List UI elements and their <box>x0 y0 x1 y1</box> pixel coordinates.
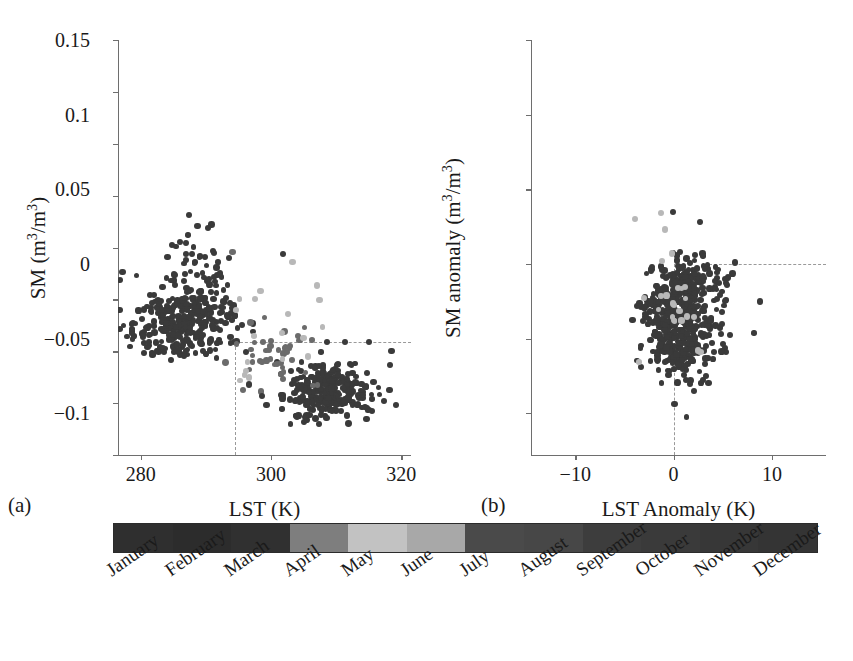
scatter-point <box>195 308 201 314</box>
scatter-point <box>704 334 710 340</box>
scatter-point <box>146 339 152 345</box>
scatter-point <box>706 285 713 292</box>
y-axis-tick-label: 0.05 <box>55 179 90 199</box>
scatter-point <box>310 383 316 389</box>
scatter-point <box>699 285 705 291</box>
scatter-point <box>318 387 323 392</box>
scatter-point <box>718 348 725 355</box>
scatter-point <box>259 359 264 364</box>
scatter-point <box>181 353 187 359</box>
scatter-point <box>234 341 240 347</box>
scatter-point <box>173 244 178 249</box>
scatter-point <box>687 260 693 266</box>
scatter-point <box>333 402 339 408</box>
scatter-point <box>314 282 320 288</box>
scatter-point <box>676 327 681 332</box>
scatter-point <box>362 404 367 409</box>
scatter-point <box>663 344 670 351</box>
scatter-point <box>669 282 674 287</box>
scatter-point <box>679 264 686 271</box>
scatter-point <box>280 356 285 361</box>
scatter-point <box>197 288 204 295</box>
scatter-point <box>246 381 252 387</box>
scatter-point <box>181 278 187 284</box>
scatter-point <box>329 408 335 414</box>
scatter-point <box>648 358 654 364</box>
scatter-point <box>259 393 265 399</box>
scatter-point <box>158 326 164 332</box>
scatter-point <box>263 348 269 354</box>
scatter-point <box>732 259 738 265</box>
scatter-point <box>323 415 330 422</box>
scatter-point <box>222 359 229 366</box>
scatter-point <box>659 258 665 264</box>
scatter-point <box>696 278 701 283</box>
scatter-point <box>118 277 123 283</box>
scatter-point <box>687 381 693 387</box>
scatter-point <box>129 331 134 336</box>
scatter-point <box>669 250 675 256</box>
panel-a-plot-area <box>118 40 411 455</box>
scatter-point <box>671 401 677 407</box>
scatter-point <box>191 244 197 250</box>
scatter-point <box>713 264 718 269</box>
scatter-point <box>246 374 252 380</box>
scatter-point <box>719 309 725 315</box>
scatter-point <box>205 225 211 231</box>
scatter-point <box>252 296 258 302</box>
scatter-point <box>662 226 668 232</box>
scatter-point <box>280 251 286 257</box>
scatter-point <box>305 353 311 359</box>
y-axis-tick-label: 0.1 <box>65 105 90 125</box>
scatter-point <box>700 253 705 258</box>
y-axis-tick-label: 0 <box>80 254 90 274</box>
scatter-point <box>670 300 677 307</box>
scatter-point <box>711 349 718 356</box>
scatter-point <box>272 362 277 367</box>
x-axis-tick <box>674 455 675 460</box>
scatter-point <box>705 355 711 361</box>
scatter-point <box>186 330 191 335</box>
scatter-point <box>185 232 190 237</box>
scatter-point <box>168 357 174 363</box>
scatter-point <box>345 420 352 427</box>
scatter-point <box>316 297 322 303</box>
scatter-point <box>672 343 677 348</box>
scatter-point <box>248 347 253 352</box>
scatter-point <box>370 379 376 385</box>
scatter-point <box>654 315 660 321</box>
scatter-point <box>289 357 295 363</box>
scatter-point <box>377 392 382 397</box>
scatter-point <box>703 373 709 379</box>
scatter-point <box>250 359 256 365</box>
scatter-point <box>200 348 206 354</box>
scatter-point <box>208 289 214 295</box>
scatter-point <box>369 396 374 401</box>
scatter-point <box>280 376 286 382</box>
scatter-point <box>134 273 139 278</box>
scatter-point <box>340 385 345 390</box>
scatter-point <box>688 321 693 326</box>
x-axis-tick-label: 300 <box>256 464 286 484</box>
scatter-point <box>207 347 214 354</box>
scatter-point <box>344 412 350 418</box>
scatter-point <box>641 295 647 301</box>
y-axis-tick-label: −0.05 <box>44 329 90 349</box>
scatter-point <box>160 313 165 318</box>
scatter-point <box>281 369 287 375</box>
scatter-point <box>638 343 643 348</box>
scatter-point <box>674 379 681 386</box>
scatter-point <box>656 331 662 337</box>
scatter-point <box>139 316 145 322</box>
colorbar-segment-july <box>465 524 524 552</box>
scatter-point <box>651 291 656 296</box>
scatter-point <box>670 209 676 215</box>
scatter-point <box>697 369 703 375</box>
scatter-point <box>662 359 668 365</box>
scatter-point <box>366 339 372 345</box>
scatter-point <box>285 311 291 317</box>
scatter-point <box>716 280 722 286</box>
scatter-point <box>197 339 204 346</box>
scatter-point <box>665 368 670 373</box>
panel-b-plot-area <box>531 40 826 455</box>
